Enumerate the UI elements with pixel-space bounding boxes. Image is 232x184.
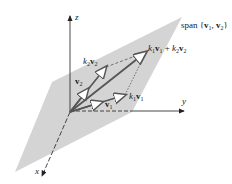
y-axis-label: y (182, 97, 186, 106)
z-axis-label: z (75, 13, 79, 22)
sum-label: k1v1 + k2v2 (148, 44, 187, 54)
v2-label: v2 (75, 77, 83, 87)
x-axis-label: x (35, 167, 39, 176)
span-label: span {v1, v2} (181, 21, 228, 31)
k1v1-label: k1v1 (129, 92, 144, 102)
span-diagram: z y x span {v1, v2} k1v1 + k2v2 k2v2 v2 … (0, 0, 232, 184)
k2v2-label: k2v2 (83, 57, 98, 67)
span-plane (15, 17, 182, 172)
v1-label: v1 (105, 100, 113, 110)
